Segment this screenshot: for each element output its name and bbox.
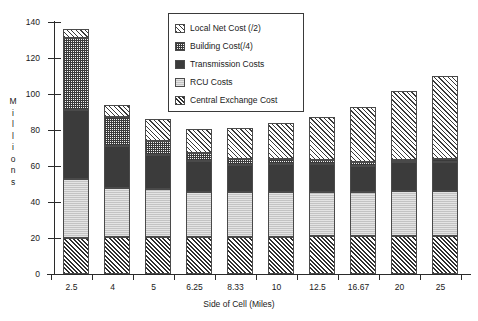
y-axis-tick-label: 80	[14, 126, 40, 135]
bar-segment[interactable]	[391, 160, 417, 163]
bar-segment[interactable]	[268, 159, 294, 164]
bar-segment[interactable]	[104, 188, 130, 238]
bar-segment[interactable]	[145, 189, 171, 237]
y-axis-tick-label: 40	[14, 198, 40, 207]
bar-segment[interactable]	[104, 146, 130, 187]
bar-segment[interactable]	[145, 119, 171, 141]
bar-segment[interactable]	[268, 123, 294, 159]
bar-group[interactable]	[63, 22, 89, 274]
bar-segment[interactable]	[63, 179, 89, 238]
bar-segment[interactable]	[391, 191, 417, 236]
bar-segment[interactable]	[145, 141, 171, 155]
stacked-bar-chart: Millions 140120100806040200 2.5456.258.3…	[0, 0, 478, 321]
x-axis-tick-label: 4	[92, 283, 133, 292]
bar-segment[interactable]	[227, 237, 253, 274]
legend-item[interactable]: Building Cost(/4)	[175, 37, 303, 55]
bar-segment[interactable]	[350, 107, 376, 163]
legend-swatch-icon	[175, 24, 185, 33]
bar-group[interactable]	[145, 22, 171, 274]
bar-segment[interactable]	[309, 236, 335, 274]
bar-segment[interactable]	[104, 117, 130, 146]
x-axis-tick	[256, 274, 257, 280]
x-axis-tick-label: 6.25	[174, 283, 215, 292]
bar-segment[interactable]	[268, 164, 294, 192]
legend-swatch-icon	[175, 96, 185, 105]
x-axis-title: Side of Cell (Miles)	[0, 299, 478, 309]
legend-item[interactable]: RCU Costs	[175, 73, 303, 91]
bar-segment[interactable]	[350, 192, 376, 236]
bar-segment[interactable]	[186, 237, 212, 274]
bar-segment[interactable]	[432, 236, 458, 274]
bar-segment[interactable]	[309, 192, 335, 236]
bar-segment[interactable]	[63, 29, 89, 38]
y-axis-title-letter: s	[6, 177, 20, 189]
bar-segment[interactable]	[186, 153, 212, 161]
x-axis-tick	[51, 274, 52, 280]
y-axis-title-letter: i	[6, 142, 20, 154]
bar-segment[interactable]	[186, 192, 212, 237]
x-axis-tick-label: 12.5	[297, 283, 338, 292]
bar-segment[interactable]	[145, 237, 171, 274]
y-axis-title: Millions	[6, 96, 20, 188]
y-axis-tick-label: 0	[14, 270, 40, 279]
x-axis-tick-label: 10	[256, 283, 297, 292]
bar-segment[interactable]	[268, 237, 294, 274]
y-axis-tick-label: 20	[14, 234, 40, 243]
bar-segment[interactable]	[309, 117, 335, 159]
y-axis-tick-label: 140	[14, 18, 40, 27]
bar-segment[interactable]	[391, 91, 417, 159]
x-axis-tick	[174, 274, 175, 280]
bar-segment[interactable]	[186, 161, 212, 193]
bar-segment[interactable]	[432, 162, 458, 192]
bar-segment[interactable]	[350, 236, 376, 274]
bar-segment[interactable]	[350, 162, 376, 166]
bar-segment[interactable]	[63, 110, 89, 178]
bar-segment[interactable]	[432, 159, 458, 162]
bar-segment[interactable]	[391, 162, 417, 191]
x-axis-tick	[379, 274, 380, 280]
bar-segment[interactable]	[63, 238, 89, 274]
legend-item[interactable]: Local Net Cost (/2)	[175, 19, 303, 37]
legend-item-label: Transmission Costs	[190, 60, 264, 69]
bar-segment[interactable]	[186, 129, 212, 152]
bar-segment[interactable]	[391, 236, 417, 274]
bar-segment[interactable]	[227, 192, 253, 237]
bar-segment[interactable]	[227, 159, 253, 165]
bar-segment[interactable]	[104, 105, 130, 118]
chart-legend: Local Net Cost (/2)Building Cost(/4)Tran…	[168, 13, 304, 112]
x-axis-tick-label: 16.67	[338, 283, 379, 292]
bar-segment[interactable]	[227, 128, 253, 159]
legend-swatch-icon	[175, 78, 185, 87]
bar-segment[interactable]	[350, 166, 376, 192]
y-axis-tick-label: 120	[14, 54, 40, 63]
bar-group[interactable]	[350, 22, 376, 274]
bar-segment[interactable]	[309, 164, 335, 192]
bar-segment[interactable]	[145, 155, 171, 189]
bar-segment[interactable]	[104, 237, 130, 274]
legend-swatch-icon	[175, 60, 185, 69]
bar-group[interactable]	[432, 22, 458, 274]
y-axis-title-letter: i	[6, 108, 20, 120]
bar-segment[interactable]	[432, 76, 458, 159]
legend-item-label: Central Exchange Cost	[190, 96, 277, 105]
bar-segment[interactable]	[309, 160, 335, 165]
bar-group[interactable]	[104, 22, 130, 274]
legend-item[interactable]: Central Exchange Cost	[175, 91, 303, 109]
x-axis-tick	[420, 274, 421, 280]
bar-group[interactable]	[391, 22, 417, 274]
y-axis-tick-label: 60	[14, 162, 40, 171]
legend-swatch-icon	[175, 42, 185, 51]
bar-segment[interactable]	[63, 38, 89, 110]
legend-item[interactable]: Transmission Costs	[175, 55, 303, 73]
x-axis-tick-label: 2.5	[51, 283, 92, 292]
y-axis-tick-label: 100	[14, 90, 40, 99]
x-axis-tick-label: 8.33	[215, 283, 256, 292]
x-axis-tick	[338, 274, 339, 280]
x-axis-tick-label: 5	[133, 283, 174, 292]
x-axis-tick-label: 20	[379, 283, 420, 292]
bar-segment[interactable]	[268, 192, 294, 237]
legend-item-label: Local Net Cost (/2)	[190, 24, 261, 33]
bar-group[interactable]	[309, 22, 335, 274]
bar-segment[interactable]	[432, 191, 458, 236]
bar-segment[interactable]	[227, 165, 253, 192]
